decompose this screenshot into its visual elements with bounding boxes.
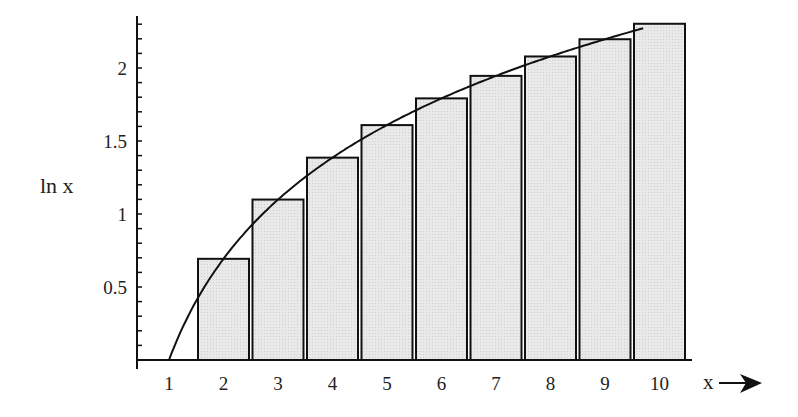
x-tick-label: 2 bbox=[219, 373, 229, 394]
bar-group bbox=[198, 24, 685, 360]
bar-2 bbox=[198, 259, 249, 360]
bar-6 bbox=[416, 98, 467, 360]
x-tick-label: 5 bbox=[382, 373, 392, 394]
bar-5 bbox=[362, 125, 413, 360]
x-tick-label: 10 bbox=[650, 373, 669, 394]
x-tick-label: 6 bbox=[437, 373, 447, 394]
x-tick-label: 1 bbox=[164, 373, 174, 394]
bar-9 bbox=[580, 39, 631, 360]
bar-8 bbox=[525, 56, 576, 360]
x-tick-label: 7 bbox=[491, 373, 501, 394]
y-tick-label: 2 bbox=[118, 58, 128, 79]
bar-7 bbox=[471, 76, 522, 360]
y-axis-label: ln x bbox=[40, 173, 74, 198]
right-arrow-icon bbox=[719, 374, 762, 393]
chart: 0.511.52 12345678910 ln x x bbox=[0, 0, 798, 417]
x-axis-label: x bbox=[703, 370, 714, 394]
x-tick-label: 9 bbox=[600, 373, 610, 394]
y-tick-label: 1.5 bbox=[103, 131, 127, 152]
bar-3 bbox=[253, 200, 304, 360]
y-tick-label: 0.5 bbox=[103, 277, 127, 298]
bar-4 bbox=[307, 158, 358, 360]
x-tick-label: 4 bbox=[328, 373, 338, 394]
x-tick-labels: 12345678910 bbox=[164, 373, 669, 394]
y-tick-label: 1 bbox=[118, 204, 128, 225]
bar-10 bbox=[634, 24, 685, 360]
x-tick-label: 8 bbox=[546, 373, 556, 394]
x-tick-label: 3 bbox=[273, 373, 283, 394]
